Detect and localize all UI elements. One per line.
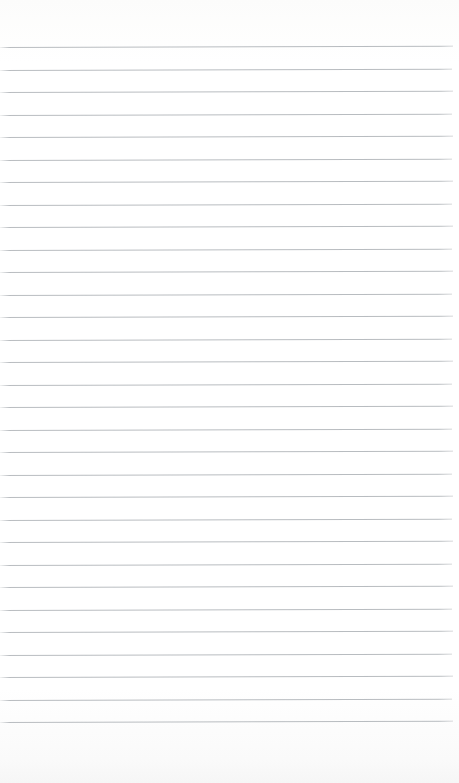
rule-line — [0, 316, 453, 318]
rule-line — [0, 158, 452, 160]
rule-line — [0, 248, 452, 250]
rule-line — [0, 676, 453, 678]
rule-line — [0, 91, 453, 93]
rule-line — [0, 203, 452, 205]
rule-line — [0, 136, 453, 138]
rule-line — [0, 541, 453, 543]
rule-line — [0, 586, 453, 588]
rule-line — [0, 473, 452, 475]
rule-line — [0, 181, 453, 183]
rule-line — [0, 293, 452, 295]
rule-line — [0, 226, 453, 228]
ruled-lines-container — [0, 0, 459, 783]
rule-line — [0, 518, 452, 520]
rule-line — [0, 653, 452, 655]
rule-line — [0, 451, 453, 453]
rule-line — [0, 46, 453, 48]
lined-page — [0, 0, 459, 783]
rule-line — [0, 698, 452, 700]
rule-line — [0, 496, 453, 498]
rule-line — [0, 428, 452, 430]
rule-line — [0, 361, 453, 363]
rule-line — [0, 406, 453, 408]
rule-line — [0, 721, 453, 723]
rule-line — [0, 631, 453, 633]
rule-line — [0, 68, 452, 70]
rule-line — [0, 113, 452, 115]
rule-line — [0, 383, 452, 385]
rule-line — [0, 608, 452, 610]
rule-line — [0, 563, 452, 565]
rule-line — [0, 338, 452, 340]
rule-line — [0, 271, 453, 273]
